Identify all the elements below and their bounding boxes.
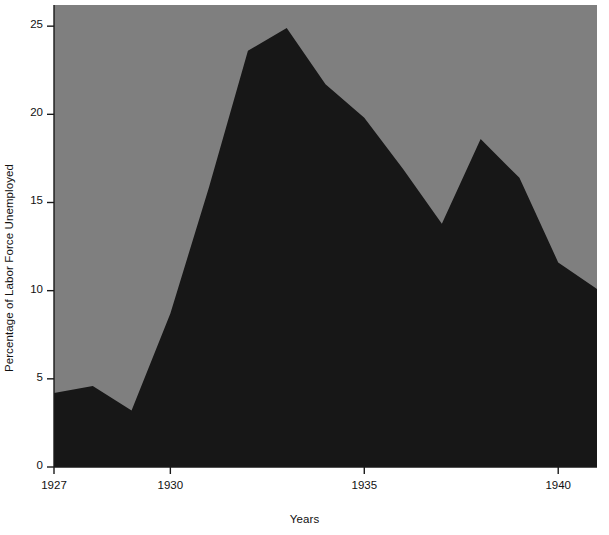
y-tick-label: 20 [17, 106, 43, 118]
y-axis-title-text: Percentage of Labor Force Unemployed [3, 163, 15, 371]
x-tick-label: 1927 [29, 479, 79, 491]
x-axis-title: Years [0, 513, 609, 525]
y-axis-ticks [47, 26, 54, 467]
x-axis-title-text: Years [290, 513, 320, 525]
x-tick-label: 1940 [533, 479, 583, 491]
x-axis-ticks [54, 467, 558, 474]
x-tick-label: 1930 [145, 479, 195, 491]
chart-canvas [0, 0, 609, 535]
y-tick-label: 5 [17, 371, 43, 383]
y-axis-title: Percentage of Labor Force Unemployed [0, 0, 18, 535]
x-tick-label: 1935 [339, 479, 389, 491]
y-tick-label: 25 [17, 18, 43, 30]
y-tick-label: 15 [17, 194, 43, 206]
y-tick-label: 0 [17, 459, 43, 471]
y-tick-label: 10 [17, 283, 43, 295]
unemployment-area-chart: Percentage of Labor Force Unemployed Yea… [0, 0, 609, 535]
